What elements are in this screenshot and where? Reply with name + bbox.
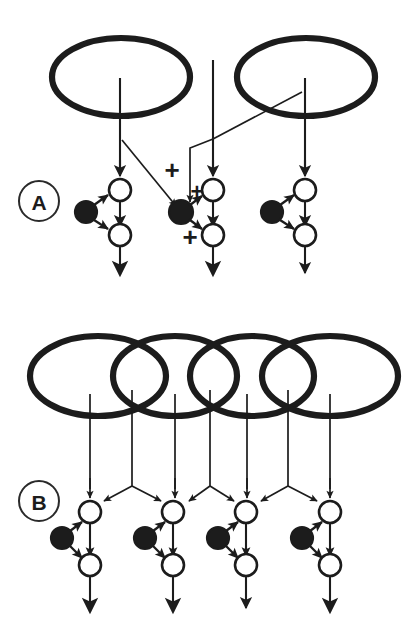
- branch-b-1-left: [104, 486, 132, 501]
- inhibitory-neuron-a-center: [169, 200, 193, 224]
- figure-canvas: A: [0, 0, 411, 636]
- panel-b-label-badge: B: [19, 481, 59, 521]
- synapse-b-2-to-top: [153, 522, 165, 531]
- excitatory-neuron-b-3-bottom: [235, 554, 257, 576]
- excitatory-neuron-a-center-top: [202, 179, 224, 201]
- synapse-b-4-to-bottom: [310, 546, 322, 558]
- plus-sign-upper-left: +: [164, 155, 179, 185]
- branch-b-3-left: [261, 486, 288, 501]
- excitatory-neuron-b-2-bottom: [162, 554, 184, 576]
- synapse-b-1-to-bottom: [70, 546, 82, 558]
- unit-b-4: [291, 501, 341, 612]
- excitatory-neuron-a-left-bottom: [109, 224, 131, 246]
- synapse-b-3-to-bottom: [226, 546, 238, 558]
- inhibitory-neuron-b-4: [291, 527, 313, 549]
- synapse-a-left-to-top: [94, 195, 108, 205]
- unit-b-3: [207, 501, 257, 608]
- panel-b: B: [19, 336, 398, 612]
- panel-a-label-badge: A: [19, 181, 59, 221]
- excitatory-neuron-b-1-top: [79, 501, 101, 523]
- excitatory-neuron-b-2-top: [162, 501, 184, 523]
- diagram-svg: A: [0, 0, 411, 636]
- receptive-field-ellipse-b-3: [190, 336, 314, 416]
- synapse-b-1-to-top: [70, 522, 82, 531]
- excitatory-neuron-a-right-top: [294, 179, 316, 201]
- excitatory-neuron-b-3-top: [235, 501, 257, 523]
- branch-b-2-right: [210, 486, 234, 501]
- inhibitory-neuron-b-2: [134, 527, 156, 549]
- inhibitory-neuron-a-right: [261, 201, 283, 223]
- excitatory-neuron-b-4-top: [319, 501, 341, 523]
- panel-a-letter: A: [31, 191, 46, 214]
- synapse-a-right-to-bottom: [280, 220, 294, 229]
- synapse-b-3-to-top: [226, 522, 238, 531]
- panel-b-letter: B: [31, 491, 46, 514]
- unit-b-1: [51, 501, 101, 612]
- synapse-b-4-to-top: [310, 522, 322, 531]
- excitatory-neuron-a-left-top: [109, 179, 131, 201]
- excitatory-neuron-b-4-bottom: [319, 554, 341, 576]
- unit-a-left: [75, 179, 131, 275]
- synapse-b-2-to-bottom: [153, 546, 165, 558]
- branch-b-1-right: [132, 486, 161, 501]
- synapse-a-left-to-bottom: [94, 220, 108, 229]
- unit-b-2: [134, 501, 184, 612]
- plus-sign-mid-right: +: [191, 179, 204, 204]
- inhibitory-neuron-a-left: [75, 201, 97, 223]
- inhibitory-neuron-b-3: [207, 527, 229, 549]
- branch-b-3-right: [288, 486, 317, 501]
- excitatory-neuron-a-right-bottom: [294, 224, 316, 246]
- branch-b-2-left: [189, 486, 210, 501]
- panel-a: A: [19, 38, 375, 275]
- excitatory-neuron-a-center-bottom: [202, 224, 224, 246]
- synapse-a-right-to-top: [280, 195, 294, 205]
- receptive-field-ellipse-b-1: [30, 336, 166, 416]
- unit-a-right: [261, 179, 316, 273]
- inhibitory-neuron-b-1: [51, 527, 73, 549]
- excitatory-neuron-b-1-bottom: [79, 554, 101, 576]
- plus-sign-lower: +: [182, 222, 197, 252]
